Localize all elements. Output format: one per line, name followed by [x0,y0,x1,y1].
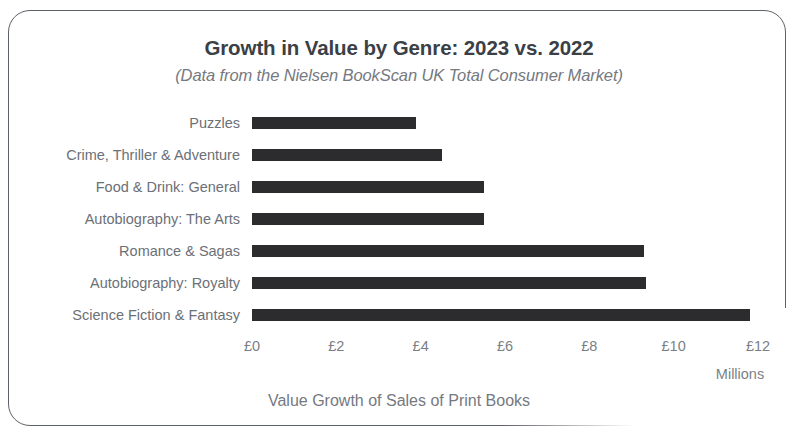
bar-row: Food & Drink: General [252,181,758,213]
plot-area: PuzzlesCrime, Thriller & AdventureFood &… [252,112,758,334]
bar-row: Autobiography: Royalty [252,277,758,309]
category-label: Autobiography: Royalty [0,277,240,289]
category-label: Food & Drink: General [0,181,240,193]
x-axis: £0£2£4£6£8£10£12 [252,338,758,358]
bar-row: Crime, Thriller & Adventure [252,149,758,181]
x-tick-label: £6 [497,338,513,354]
bar-chart: Growth in Value by Genre: 2023 vs. 2022 … [0,0,798,439]
bar [252,277,646,289]
bar-row: Science Fiction & Fantasy [252,309,758,341]
x-tick-label: £4 [413,338,429,354]
bar-row: Puzzles [252,117,758,149]
bar-row: Autobiography: The Arts [252,213,758,245]
x-axis-title: Value Growth of Sales of Print Books [0,392,798,410]
bar [252,117,416,129]
x-tick-label: £8 [581,338,597,354]
category-label: Puzzles [0,117,240,129]
category-label: Crime, Thriller & Adventure [0,149,240,161]
bar [252,149,442,161]
x-axis-units-label: Millions [690,366,790,382]
x-tick-label: £12 [746,338,770,354]
bar [252,309,750,321]
category-label: Autobiography: The Arts [0,213,240,225]
x-tick-label: £2 [328,338,344,354]
bar [252,245,644,257]
chart-title: Growth in Value by Genre: 2023 vs. 2022 [0,36,798,60]
bar [252,181,484,193]
x-tick-label: £0 [244,338,260,354]
category-label: Science Fiction & Fantasy [0,309,240,321]
chart-subtitle: (Data from the Nielsen BookScan UK Total… [0,66,798,85]
category-label: Romance & Sagas [0,245,240,257]
x-tick-label: £10 [662,338,686,354]
bar [252,213,484,225]
bar-row: Romance & Sagas [252,245,758,277]
